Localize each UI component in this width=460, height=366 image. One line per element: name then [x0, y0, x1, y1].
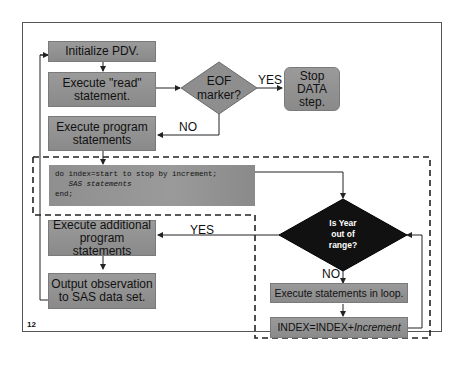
- stop-label-3: step.: [299, 96, 325, 109]
- code-line-3: end;: [55, 189, 249, 199]
- increment-variable: Increment: [354, 321, 401, 334]
- execute-additional-box: Execute additional program statements: [48, 220, 156, 256]
- execute-program-box: Execute program statements: [48, 116, 156, 151]
- initialize-pdv-box: Initialize PDV.: [48, 41, 156, 62]
- program-label-1: Execute program: [56, 121, 147, 134]
- additional-label-2: program statements: [49, 232, 155, 258]
- loop-execute-label: Execute statements in loop.: [275, 287, 404, 300]
- program-label-2: statements: [73, 134, 132, 147]
- eof-label-1: EOF: [191, 74, 247, 88]
- year-range-decision: Is Year out of range?: [313, 218, 373, 251]
- code-line-2: SAS statements: [55, 179, 249, 189]
- execute-read-box: Execute "read" statement.: [48, 72, 156, 107]
- eof-decision: EOF marker?: [191, 74, 247, 102]
- output-label-2: to SAS data set.: [59, 291, 146, 304]
- initialize-label: Initialize PDV.: [65, 45, 139, 58]
- decision-label-2: out of: [313, 229, 373, 240]
- stop-label-1: Stop: [300, 70, 325, 83]
- read-label-1: Execute "read": [62, 77, 141, 90]
- eof-yes-label: YES: [258, 73, 282, 87]
- increment-prefix: INDEX=INDEX+: [277, 321, 353, 334]
- eof-label-2: marker?: [191, 88, 247, 102]
- increment-box: INDEX=INDEX+Increment: [270, 317, 408, 338]
- decision-label-1: Is Year: [313, 218, 373, 229]
- page-number: 12: [27, 320, 36, 329]
- loop-yes-label: YES: [190, 223, 214, 237]
- stop-data-step-box: Stop DATA step.: [284, 67, 340, 111]
- read-label-2: statement.: [74, 90, 130, 103]
- stop-label-2: DATA: [297, 83, 327, 96]
- do-loop-code-box: do index=start to stop by increment; SAS…: [49, 165, 255, 206]
- decision-label-3: range?: [313, 240, 373, 251]
- output-observation-box: Output observation to SAS data set.: [48, 273, 156, 309]
- eof-no-label: NO: [179, 120, 197, 134]
- loop-no-label: NO: [322, 267, 340, 281]
- code-line-1: do index=start to stop by increment;: [55, 169, 249, 179]
- execute-loop-box: Execute statements in loop.: [270, 283, 408, 303]
- additional-label-1: Execute additional: [53, 219, 151, 232]
